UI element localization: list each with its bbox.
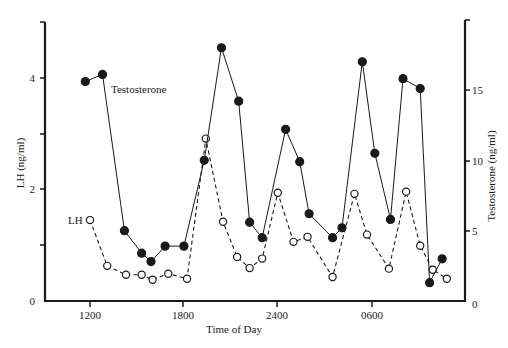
right-tick-label-0: 0 [472, 298, 478, 310]
testosterone-data-point [161, 242, 169, 250]
lh-data-point [219, 218, 226, 225]
x-tick-label-2400: 2400 [266, 309, 289, 321]
testosterone-data-point [217, 44, 225, 52]
left-tick-label-4: 4 [30, 72, 36, 84]
testosterone-data-point [147, 258, 155, 266]
testosterone-data-point [180, 242, 188, 250]
x-tick-label-1200: 1200 [79, 309, 102, 321]
testosterone-data-point [138, 249, 146, 257]
left-axis-title: LH (ng/ml) [14, 137, 27, 188]
testosterone-data-point [338, 224, 346, 232]
lh-data-point [259, 255, 266, 262]
testosterone-data-point [399, 75, 407, 83]
testosterone-data-point [296, 158, 304, 166]
lh-data-point [403, 188, 410, 195]
testosterone-data-point [329, 234, 337, 242]
lh-data-point [234, 253, 241, 260]
testosterone-data-point [200, 156, 208, 164]
testosterone-data-point [81, 78, 89, 86]
lh-data-point [363, 231, 370, 238]
right-axis-title: Testosterone (ng/ml) [485, 130, 498, 222]
testosterone-data-point [282, 125, 290, 133]
testosterone-data-point [371, 149, 379, 157]
testosterone-data-point [386, 215, 394, 223]
lh-data-point [138, 271, 145, 278]
right-tick-label-15: 15 [472, 84, 484, 96]
lh-data-point [290, 238, 297, 245]
lh-data-point [417, 242, 424, 249]
testosterone-series-label: Testosterone [111, 83, 167, 95]
lh-data-point [329, 273, 336, 280]
testosterone-data-point [416, 85, 424, 93]
lh-data-point [165, 270, 172, 277]
lh-data-point [183, 275, 190, 282]
x-axis-title: Time of Day [206, 323, 262, 335]
lh-series-label: LH [68, 214, 83, 226]
testosterone-data-point [358, 58, 366, 66]
right-tick-label-5: 5 [472, 225, 478, 237]
hormone-chart: 4 2 0 15 10 5 0 1200 1800 2400 0600 Time… [0, 0, 508, 348]
lh-data-point [149, 276, 156, 283]
lh-data-point [122, 271, 129, 278]
testosterone-data-point [99, 70, 107, 78]
tick-labels: 4 2 0 15 10 5 0 1200 1800 2400 0600 [30, 72, 484, 321]
testosterone-data-point [305, 210, 313, 218]
testosterone-data-point [426, 279, 434, 287]
testosterone-data-point [438, 255, 446, 263]
lh-data-point [104, 262, 111, 269]
lh-data-point [86, 216, 93, 223]
x-tick-label-0600: 0600 [361, 309, 384, 321]
testosterone-data-point [258, 234, 266, 242]
right-tick-label-10: 10 [472, 155, 484, 167]
testosterone-data-point [246, 218, 254, 226]
lh-data-point [246, 264, 253, 271]
left-tick-label-2: 2 [30, 183, 36, 195]
left-tick-label-0: 0 [30, 295, 36, 307]
testosterone-series [81, 44, 446, 287]
lh-data-point [385, 265, 392, 272]
x-tick-label-1800: 1800 [172, 309, 195, 321]
testosterone-data-point [120, 227, 128, 235]
lh-data-point [443, 275, 450, 282]
lh-data-point [304, 233, 311, 240]
testosterone-data-point [235, 97, 243, 105]
lh-data-point [351, 190, 358, 197]
lh-data-point [274, 189, 281, 196]
